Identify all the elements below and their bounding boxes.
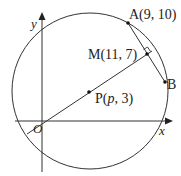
diagram-canvas: A(9, 10) M(11, 7) B P(p, 3) y x O bbox=[0, 0, 181, 176]
label-P-var: p bbox=[106, 91, 114, 106]
right-angle-marker-icon bbox=[144, 47, 151, 52]
label-P-suffix: , 3) bbox=[114, 91, 133, 107]
label-B: B bbox=[167, 77, 176, 92]
label-P: P(p, 3) bbox=[95, 91, 133, 107]
label-A: A(9, 10) bbox=[129, 7, 177, 23]
point-M bbox=[145, 52, 149, 56]
label-y-axis: y bbox=[29, 16, 37, 31]
label-M: M(11, 7) bbox=[88, 47, 138, 63]
x-axis-arrow-icon bbox=[165, 118, 173, 125]
diagram-svg: A(9, 10) M(11, 7) B P(p, 3) y x O bbox=[0, 0, 181, 176]
y-axis-arrow-icon bbox=[39, 12, 46, 20]
label-x-axis: x bbox=[158, 123, 165, 138]
point-P bbox=[87, 90, 91, 94]
label-origin: O bbox=[33, 121, 43, 136]
label-P-prefix: P( bbox=[95, 91, 108, 107]
